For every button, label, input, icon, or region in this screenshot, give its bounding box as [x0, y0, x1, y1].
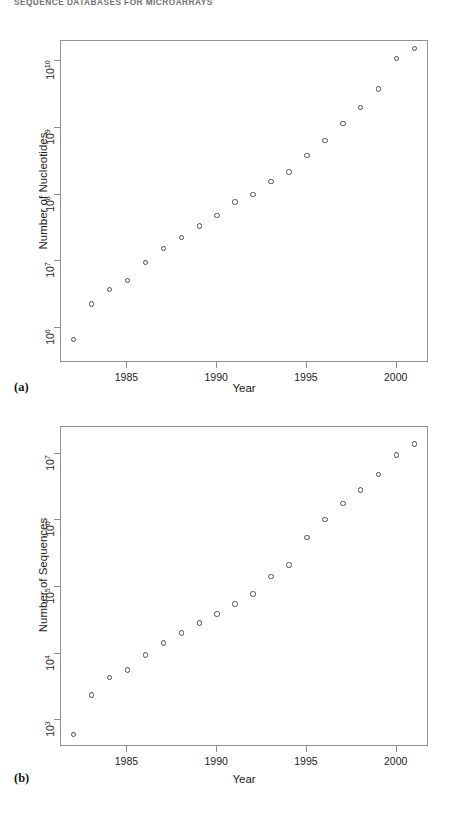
- x-axis-tick: [216, 362, 217, 368]
- data-point: [71, 732, 76, 737]
- y-axis-tick-label: 108: [44, 194, 56, 214]
- data-point: [143, 652, 148, 657]
- data-point: [394, 56, 399, 61]
- plot-area-nucleotides: [60, 40, 428, 362]
- x-axis-title-b: Year: [60, 773, 428, 785]
- data-point: [214, 611, 219, 616]
- data-point: [376, 472, 381, 477]
- data-point: [412, 46, 417, 51]
- x-axis-tick-label: 1995: [294, 371, 317, 383]
- data-point: [107, 287, 112, 292]
- data-point: [197, 620, 202, 625]
- data-point: [376, 86, 381, 91]
- x-axis-tick: [396, 362, 397, 368]
- data-point: [394, 452, 399, 457]
- data-point: [250, 192, 255, 197]
- data-point: [268, 574, 273, 579]
- x-axis-title-a: Year: [60, 382, 428, 394]
- y-axis-tick-label: 109: [44, 127, 56, 147]
- running-head: SEQUENCE DATABASES FOR MICROARRAYS: [14, 0, 434, 9]
- y-axis-tick-label: 107: [44, 260, 56, 280]
- data-point: [71, 337, 76, 342]
- y-axis-tick-label: 107: [44, 453, 56, 473]
- x-axis-tick: [216, 746, 217, 752]
- y-axis-tick-label: 104: [44, 653, 56, 673]
- x-axis-tick-label: 1985: [115, 371, 138, 383]
- data-point: [197, 223, 202, 228]
- y-axis-tick-label: 106: [44, 327, 56, 347]
- data-point: [340, 121, 345, 126]
- y-axis-title-b: Number of Sequences: [37, 485, 49, 665]
- figure-panel-a: Year Number of Nucleotides (a) 198519901…: [0, 22, 449, 402]
- data-point: [250, 591, 255, 596]
- data-point: [304, 153, 309, 158]
- x-axis-tick: [306, 362, 307, 368]
- data-point: [358, 105, 363, 110]
- x-axis-tick: [126, 362, 127, 368]
- data-point: [161, 246, 166, 251]
- data-point: [412, 441, 417, 446]
- data-point: [286, 169, 291, 174]
- data-point: [232, 601, 237, 606]
- x-axis-tick-label: 1990: [204, 755, 227, 767]
- data-point: [125, 667, 130, 672]
- data-point: [89, 301, 94, 306]
- data-point: [304, 535, 309, 540]
- x-axis-tick-label: 1990: [204, 371, 227, 383]
- x-axis-tick: [126, 746, 127, 752]
- y-axis-tick-label: 106: [44, 519, 56, 539]
- y-axis-tick-label: 103: [44, 719, 56, 739]
- data-point: [161, 640, 166, 645]
- panel-label-a: (a): [14, 380, 29, 395]
- plot-area-sequences: [60, 426, 428, 746]
- data-point: [107, 675, 112, 680]
- y-axis-tick-label: 105: [44, 586, 56, 606]
- x-axis-tick: [396, 746, 397, 752]
- data-point: [214, 213, 219, 218]
- data-point: [322, 517, 327, 522]
- x-axis-tick: [306, 746, 307, 752]
- data-point: [286, 562, 291, 567]
- x-axis-tick-label: 1985: [115, 755, 138, 767]
- figure-panel-b: Year Number of Sequences (b) 19851990199…: [0, 404, 449, 804]
- x-axis-tick-label: 2000: [384, 755, 407, 767]
- y-axis-tick-label: 1010: [44, 60, 56, 80]
- x-axis-tick-label: 2000: [384, 371, 407, 383]
- data-point: [232, 199, 237, 204]
- x-axis-tick-label: 1995: [294, 755, 317, 767]
- data-point: [268, 179, 273, 184]
- data-point: [340, 501, 345, 506]
- data-point: [179, 630, 184, 635]
- data-point: [89, 692, 94, 697]
- data-point: [125, 278, 130, 283]
- data-point: [179, 235, 184, 240]
- data-point: [358, 487, 363, 492]
- data-point: [322, 138, 327, 143]
- data-point: [143, 260, 148, 265]
- panel-label-b: (b): [14, 771, 29, 786]
